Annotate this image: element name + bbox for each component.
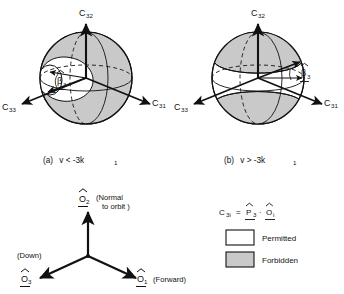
legend-label-forbidden: Forbidden — [262, 256, 298, 265]
label-beta3-b-base: β — [301, 68, 306, 78]
legend-formula: C 3i = P 3 · O i — [219, 203, 275, 219]
label-c33-a: C 33 — [2, 102, 16, 113]
o3-hat-icon — [21, 269, 29, 272]
label-c32-b: C 32 — [251, 8, 265, 19]
svg-text:(a) v < -3k: (a) v < -3k — [43, 156, 85, 165]
label-c32-b-sub: 32 — [258, 12, 265, 19]
label-c31-b-base: C — [324, 98, 331, 108]
formula-o-hat-icon — [266, 203, 273, 206]
caption-a-text: v < -3k — [59, 156, 85, 165]
label-c31-a: C 31 — [152, 98, 166, 109]
caption-a: (a) v < -3k 1 — [43, 156, 118, 166]
label-beta3-a-base: β — [57, 76, 62, 86]
label-c32-a-base: C — [79, 8, 86, 18]
frame-axis-o3 — [40, 256, 88, 278]
frame-label-o2: O 2 (Normal to orbit ) — [78, 189, 130, 211]
label-c32-b-base: C — [251, 8, 258, 18]
frame-label-o2-sub: 2 — [86, 198, 90, 205]
caption-b-text: v > -3k — [240, 156, 266, 165]
frame-label-o3: (Down) O 3 — [17, 251, 42, 287]
legend: C 3i = P 3 · O i Permitted Forbidden — [219, 203, 298, 267]
label-c33-a-sub: 33 — [9, 106, 16, 113]
frame-label-o1-base: O — [137, 274, 144, 284]
frame-label-o2-base: O — [79, 194, 86, 204]
swatch-permitted — [226, 230, 254, 245]
legend-entry-permitted: Permitted — [226, 230, 296, 245]
frame-label-o3-base: O — [21, 274, 28, 284]
label-c33-a-base: C — [2, 102, 9, 112]
formula-lhs-base: C — [219, 208, 225, 217]
caption-a-label: (a) — [43, 156, 53, 165]
o2-hat-icon — [79, 189, 87, 192]
legend-entry-forbidden: Forbidden — [226, 252, 298, 267]
caption-b: (b) v > -3k 1 — [224, 156, 297, 166]
label-c31-a-sub: 31 — [159, 102, 166, 109]
formula-equals: = — [236, 208, 241, 217]
caption-a-sub: 1 — [114, 159, 118, 166]
svg-text:(b) v > -3k: (b) v > -3k — [224, 156, 266, 165]
label-c32-a: C 32 — [79, 8, 93, 19]
label-beta3-a-sub: 3 — [63, 81, 67, 88]
formula-p-hat-icon — [246, 203, 253, 206]
frame-note-o2-line1: (Normal — [96, 193, 123, 202]
label-c31-b: C 31 — [324, 98, 338, 109]
orbit-frame: O 2 (Normal to orbit ) (Down) O 3 O 1 (F… — [17, 189, 186, 287]
label-c31-b-sub: 31 — [331, 102, 338, 109]
frame-note-o2-line2: to orbit ) — [102, 202, 130, 211]
label-c32-a-sub: 32 — [86, 12, 93, 19]
frame-label-o3-sub: 3 — [28, 278, 32, 285]
label-c33-b: C 33 — [174, 102, 188, 113]
frame-note-o3: (Down) — [17, 251, 42, 260]
label-c33-b-sub: 33 — [181, 106, 188, 113]
label-c31-a-base: C — [152, 98, 159, 108]
panel-a: C 32 C 31 C 33 β 3 (a) v < -3k 1 — [2, 8, 166, 166]
panel-b: C 32 C 31 C 33 β 3 (b) v > -3k 1 — [174, 8, 338, 166]
caption-b-label: (b) — [224, 156, 234, 165]
formula-dot: · — [259, 208, 262, 217]
formula-rhs1-sub: 3 — [253, 211, 257, 218]
frame-label-o1: O 1 (Forward) — [136, 269, 186, 287]
formula-lhs-sub: 3i — [226, 211, 231, 218]
label-c33-b-base: C — [174, 102, 181, 112]
formula-rhs2-sub: i — [273, 211, 274, 218]
frame-label-o1-sub: 1 — [144, 278, 148, 285]
frame-note-o1: (Forward) — [153, 275, 186, 284]
caption-b-sub: 1 — [293, 159, 297, 166]
frame-axis-o1 — [88, 256, 136, 278]
formula-rhs1-base: P — [246, 208, 251, 217]
figure-root: C 32 C 31 C 33 β 3 (a) v < -3k 1 — [0, 0, 344, 294]
swatch-forbidden — [226, 252, 254, 267]
legend-label-permitted: Permitted — [262, 234, 296, 243]
formula-rhs2-base: O — [266, 208, 272, 217]
label-beta3-b-sub: 3 — [307, 73, 311, 80]
o1-hat-icon — [137, 269, 145, 272]
